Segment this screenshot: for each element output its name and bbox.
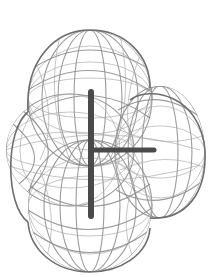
molecule-bonds [91,92,154,216]
molecule-wireframe-scene [0,0,212,277]
